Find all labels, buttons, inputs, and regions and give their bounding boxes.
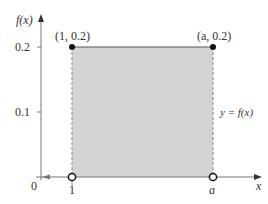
uniform-density-chart: f(x) 0.2 0.1 0 1 a x (1, 0.2) (a, 0.2) y… <box>0 0 268 204</box>
point-left-label: (1, 0.2) <box>55 29 90 43</box>
point-right-label: (a, 0.2) <box>197 29 231 43</box>
curve-label: y = f(x) <box>219 106 253 119</box>
origin-label: 0 <box>31 179 37 193</box>
y-axis-arrow-icon <box>38 14 44 22</box>
point-left-open <box>68 173 75 180</box>
point-right-open <box>209 173 216 180</box>
shaded-area <box>72 47 213 177</box>
x-axis-left-arrow-icon <box>42 175 50 180</box>
tick-label-y-01: 0.1 <box>15 105 30 119</box>
x-axis-label: x <box>255 179 262 193</box>
tick-label-y-02: 0.2 <box>15 40 30 54</box>
tick-label-x-1: 1 <box>69 183 75 197</box>
tick-label-x-a: a <box>209 183 215 197</box>
y-axis-label: f(x) <box>16 13 33 27</box>
point-left-top <box>69 44 75 50</box>
point-right-top <box>210 44 216 50</box>
